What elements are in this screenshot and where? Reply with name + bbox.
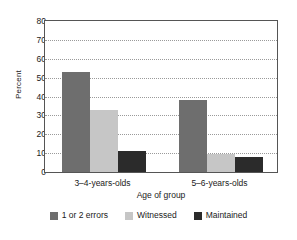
- y-axis-tick-label: 70: [22, 36, 46, 45]
- legend-label: Witnessed: [137, 211, 177, 220]
- x-axis-tick-label: 3–4-years-olds: [44, 178, 161, 188]
- bar-chart: Percent 01020304050607080 3–4-years-olds…: [0, 0, 297, 240]
- legend-swatch-icon: [50, 212, 58, 220]
- plot-area: [44, 20, 278, 173]
- legend-swatch-icon: [125, 212, 133, 220]
- bar: [62, 72, 90, 172]
- bar: [118, 151, 146, 172]
- bar: [179, 100, 207, 172]
- y-axis-tick-label: 30: [22, 111, 46, 120]
- y-axis-tick-label: 0: [22, 168, 46, 177]
- bars-group: [45, 21, 277, 172]
- y-axis-tick-label: 80: [22, 17, 46, 26]
- y-axis-tick-label: 40: [22, 93, 46, 102]
- y-axis-tick-label: 50: [22, 74, 46, 83]
- legend-label: 1 or 2 errors: [62, 211, 108, 220]
- bar: [207, 154, 235, 172]
- y-axis-tick-label: 10: [22, 149, 46, 158]
- legend-item: Witnessed: [125, 211, 177, 220]
- bar: [90, 110, 118, 172]
- x-axis-tick-label: 5–6-years-olds: [161, 178, 278, 188]
- legend: 1 or 2 errorsWitnessedMaintained: [0, 211, 297, 220]
- y-axis-tick-label: 60: [22, 55, 46, 64]
- legend-item: Maintained: [194, 211, 248, 220]
- bar: [235, 157, 263, 172]
- legend-item: 1 or 2 errors: [50, 211, 108, 220]
- y-axis-tick-label: 20: [22, 130, 46, 139]
- legend-label: Maintained: [206, 211, 248, 220]
- x-axis-title: Age of group: [44, 190, 278, 200]
- legend-swatch-icon: [194, 212, 202, 220]
